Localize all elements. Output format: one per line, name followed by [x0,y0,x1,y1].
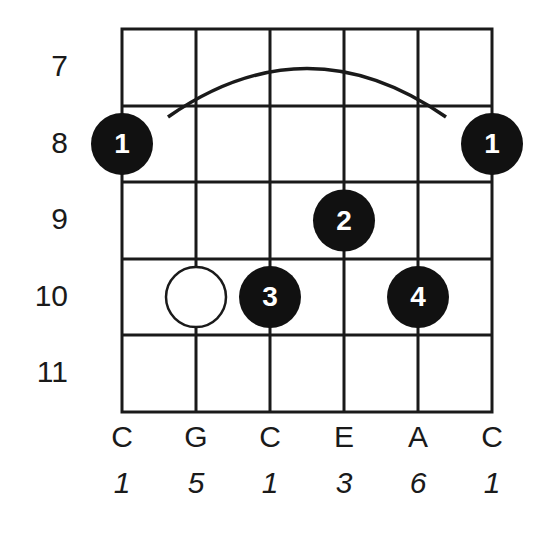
interval-label: 5 [176,466,216,500]
string-note-label: C [472,420,512,454]
fret-number-label: 11 [8,355,68,389]
fret-number-label: 10 [8,279,68,313]
interval-label: 1 [250,466,290,500]
fret-number-label: 7 [8,49,68,83]
fretboard-grid [0,0,553,540]
finger-number: 1 [102,128,142,160]
finger-number: 1 [472,128,512,160]
open-circle-marker [166,267,226,327]
finger-number: 3 [250,281,290,313]
interval-label: 1 [472,466,512,500]
interval-label: 3 [324,466,364,500]
fret-number-label: 8 [8,126,68,160]
string-note-label: C [250,420,290,454]
string-note-label: C [102,420,142,454]
interval-label: 1 [102,466,142,500]
barre-arc [168,69,446,118]
fret-number-label: 9 [8,202,68,236]
string-note-label: E [324,420,364,454]
string-note-label: A [398,420,438,454]
interval-label: 6 [398,466,438,500]
finger-number: 2 [324,205,364,237]
finger-number: 4 [398,281,438,313]
string-note-label: G [176,420,216,454]
